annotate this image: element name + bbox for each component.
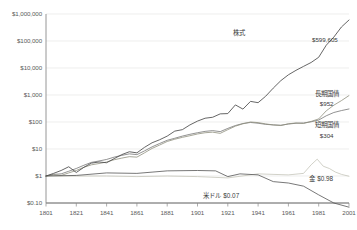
chart-plot bbox=[0, 0, 357, 230]
x-tick-label: 2001 bbox=[335, 209, 357, 216]
annotation-stocks-value: $599,605 bbox=[299, 36, 351, 44]
x-tick-label: 1901 bbox=[184, 209, 212, 216]
x-tick-label: 1981 bbox=[305, 209, 333, 216]
x-tick-label: 1921 bbox=[214, 209, 242, 216]
x-tick-label: 1861 bbox=[123, 209, 151, 216]
series-line-短期国債 bbox=[46, 109, 349, 176]
x-tick-label: 1821 bbox=[62, 209, 90, 216]
annotation-stocks-name: 株式 bbox=[213, 29, 265, 37]
annotation-stbonds-value: $304 bbox=[301, 132, 353, 140]
y-tick-label: $0.10 bbox=[27, 199, 42, 206]
x-tick-marks bbox=[46, 203, 349, 207]
chart-container: $1,000,000$100,000$10,000$1,000$100$10$1… bbox=[0, 0, 357, 230]
y-tick-label: $1,000 bbox=[24, 91, 42, 98]
y-tick-label: $100 bbox=[29, 118, 42, 125]
y-tick-label: $1 bbox=[35, 172, 42, 179]
x-tick-label: 1961 bbox=[274, 209, 302, 216]
y-tick-label: $100,000 bbox=[17, 37, 42, 44]
annotation-dollar-label: 米ドル $0.07 bbox=[195, 192, 247, 200]
y-tick-label: $10 bbox=[32, 145, 42, 152]
x-tick-label: 1941 bbox=[244, 209, 272, 216]
annotation-gold-label: 金 $0.98 bbox=[295, 175, 347, 183]
annotation-stbonds-name: 短期国債 bbox=[301, 121, 353, 129]
annotation-ltbonds-name: 長期国債 bbox=[301, 90, 353, 98]
x-tick-label: 1881 bbox=[153, 209, 181, 216]
x-tick-label: 1801 bbox=[32, 209, 60, 216]
y-tick-label: $1,000,000 bbox=[12, 10, 42, 17]
y-tick-label: $10,000 bbox=[20, 64, 42, 71]
x-tick-label: 1841 bbox=[93, 209, 121, 216]
annotation-ltbonds-value: $952 bbox=[301, 100, 353, 108]
